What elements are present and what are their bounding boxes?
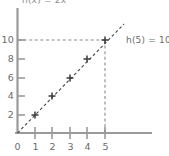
y-tick-label-8: 8 <box>0 53 14 64</box>
x-tick-label-5: 5 <box>98 141 113 152</box>
data-point-2 <box>49 93 56 100</box>
data-point-4 <box>84 56 91 63</box>
chart-canvas <box>0 0 169 156</box>
guide-lines <box>18 40 105 133</box>
y-tick-label-4: 4 <box>0 90 14 101</box>
y-tick-label-6: 6 <box>0 72 14 83</box>
x-tick-label-3: 3 <box>63 141 78 152</box>
data-point-markers <box>32 37 109 119</box>
annotation-h5-equals-10: h(5) = 10 <box>126 35 169 45</box>
y-tick-label-10: 10 <box>0 34 14 45</box>
chart-figure: h(x) = 2x h(5) = 10 10 8 6 4 2 0 1 2 3 4… <box>0 0 169 156</box>
x-tick-label-0: 0 <box>10 141 25 152</box>
data-point-5 <box>102 37 109 44</box>
chart-title: h(x) = 2x <box>22 0 66 5</box>
x-tick-label-2: 2 <box>45 141 60 152</box>
x-tick-label-1: 1 <box>28 141 43 152</box>
x-tick-label-4: 4 <box>80 141 95 152</box>
data-point-3 <box>67 75 74 82</box>
y-tick-label-2: 2 <box>0 109 14 120</box>
